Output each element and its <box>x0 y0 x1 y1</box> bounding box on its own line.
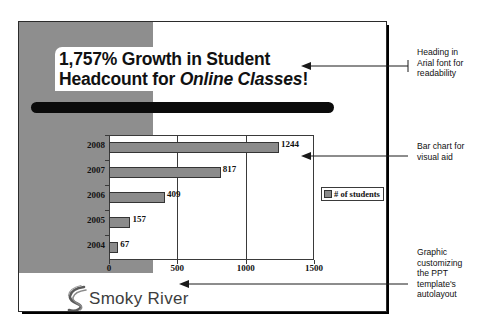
leader-line-graphic <box>178 278 412 290</box>
annotation-heading-note: Heading in Arial font for readability <box>417 47 501 79</box>
chart-bar-value-label: 409 <box>167 189 181 199</box>
chart-y-tick <box>105 210 109 211</box>
logo-wordmark: Smoky River <box>89 289 189 309</box>
chart-x-tick-label: 1000 <box>237 263 255 273</box>
chart-x-tick-label: 1500 <box>305 263 323 273</box>
chart-bar <box>109 217 130 228</box>
chart-y-tick <box>105 185 109 186</box>
chart-category-label: 2006 <box>71 190 105 200</box>
smoky-river-logo: Smoky River <box>67 284 189 312</box>
chart-legend: # of students <box>321 187 384 201</box>
legend-label: # of students <box>334 189 380 199</box>
chart-bar-value-label: 157 <box>132 214 146 224</box>
legend-swatch-icon <box>324 190 332 198</box>
chart-y-tick <box>105 235 109 236</box>
chart-bar-value-label: 67 <box>120 239 129 249</box>
chart-bar-row: 8172007 <box>71 160 371 185</box>
redacted-text-bar <box>31 102 334 113</box>
logo-initial: S <box>89 289 101 308</box>
chart-category-label: 2004 <box>71 240 105 250</box>
chart-bar-value-label: 817 <box>223 164 237 174</box>
chart-category-label: 2007 <box>71 165 105 175</box>
chart-bar <box>109 167 221 178</box>
logo-text-rest: moky River <box>101 289 189 308</box>
annotation-chart-note: Bar chart for visual aid <box>417 141 501 162</box>
chart-bar <box>109 192 165 203</box>
chart-category-label: 2008 <box>71 140 105 150</box>
screenshot-root: 1,757% Growth in StudentHeadcount for On… <box>0 0 502 335</box>
chart-x-tick-label: 500 <box>171 263 185 273</box>
chart-category-label: 2005 <box>71 215 105 225</box>
chart-bar <box>109 242 118 253</box>
chart-bar <box>109 142 279 153</box>
annotation-graphic-note: Graphic customizing the PPT template's a… <box>417 247 501 300</box>
title-line-1: 1,757% Growth in Student <box>59 49 270 69</box>
x-axis-ticks <box>109 260 314 265</box>
leader-line-chart <box>300 150 412 162</box>
title-line-2-prefix: Headcount for <box>59 69 180 89</box>
title-line-2-emphasis: Online Classes <box>180 69 303 89</box>
chart-bar-row: 1572005 <box>71 210 371 235</box>
chart-x-tick-label: 0 <box>107 263 112 273</box>
chart-y-tick <box>105 135 109 136</box>
chart-y-tick <box>105 160 109 161</box>
leader-line-heading <box>300 60 412 72</box>
chart-bar-row: 672004 <box>71 235 371 260</box>
chart-bar-value-label: 1244 <box>281 139 299 149</box>
